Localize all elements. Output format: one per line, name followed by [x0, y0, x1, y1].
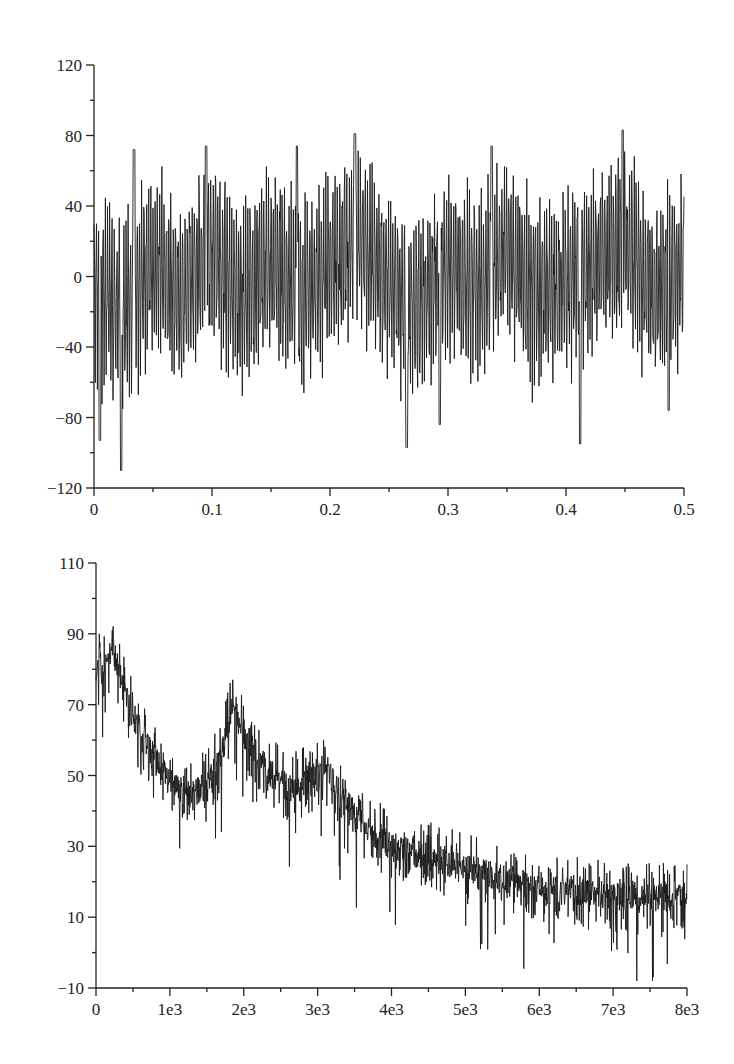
- y-tick-label: 80: [65, 127, 82, 146]
- x-tick-label: 5e3: [453, 1000, 478, 1019]
- x-tick-label: 8e3: [675, 1000, 700, 1019]
- x-tick-label: 3e3: [305, 1000, 330, 1019]
- x-tick-label: 7e3: [601, 1000, 626, 1019]
- x-tick-labels: 01e32e33e34e35e36e37e38e3: [92, 1000, 700, 1019]
- x-tick-label: 1e3: [158, 1000, 183, 1019]
- y-tick-label: −120: [47, 479, 82, 498]
- time-signal-chart: 00.10.20.30.40.5 −120−80−4004080120: [47, 56, 695, 519]
- y-tick-label: 70: [67, 696, 84, 715]
- signal-trace: [94, 130, 684, 470]
- x-tick-label: 6e3: [527, 1000, 552, 1019]
- y-tick-label: 10: [67, 908, 84, 927]
- spectrum-trace: [96, 626, 687, 981]
- spectrum-chart: 01e32e33e34e35e36e37e38e3 −1010305070901…: [57, 554, 699, 1019]
- x-tick-label: 0.1: [201, 500, 222, 519]
- x-tick-label: 0.3: [437, 500, 458, 519]
- y-tick-label: −80: [55, 409, 82, 428]
- x-tick-labels: 00.10.20.30.40.5: [90, 500, 695, 519]
- x-tick-label: 0.2: [319, 500, 340, 519]
- x-tick-label: 4e3: [379, 1000, 404, 1019]
- x-tick-label: 0.4: [555, 500, 577, 519]
- y-tick-label: 120: [57, 56, 83, 75]
- y-tick-label: 40: [65, 197, 82, 216]
- y-tick-labels: −101030507090110: [57, 554, 84, 998]
- y-tick-label: 90: [67, 625, 84, 644]
- x-tick-label: 0.5: [673, 500, 694, 519]
- y-tick-label: −10: [57, 979, 84, 998]
- x-tick-label: 0: [90, 500, 99, 519]
- y-tick-labels: −120−80−4004080120: [47, 56, 82, 498]
- y-tick-label: 30: [67, 837, 84, 856]
- y-tick-label: 50: [67, 767, 84, 786]
- y-tick-label: −40: [55, 338, 82, 357]
- y-tick-label: 110: [59, 554, 84, 573]
- y-tick-label: 0: [74, 268, 83, 287]
- x-tick-label: 0: [92, 1000, 101, 1019]
- x-tick-label: 2e3: [231, 1000, 256, 1019]
- figure: 00.10.20.30.40.5 −120−80−4004080120 01e3…: [0, 0, 734, 1064]
